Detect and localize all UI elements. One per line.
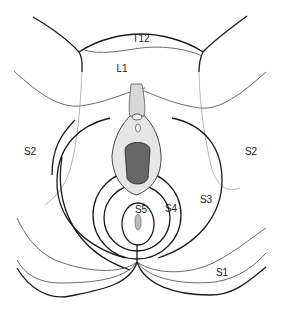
right-gluteal-line-3	[137, 228, 266, 272]
left-trunk-outline	[33, 17, 82, 72]
left-gluteal-line-3	[17, 218, 137, 270]
label-s5: S5	[135, 204, 148, 215]
clitoral-hood	[129, 84, 145, 116]
s2-right-arc	[158, 118, 222, 258]
label-t12: T12	[132, 33, 150, 44]
vaginal-opening	[125, 143, 150, 185]
t12-lower-line	[84, 47, 202, 56]
label-s4: S4	[165, 203, 178, 214]
label-s2-left: S2	[24, 146, 37, 157]
s2-left-arc	[57, 118, 125, 258]
dermatome-diagram: T12 L1 S2 S2 S3 S4 S5 S1	[0, 0, 282, 309]
left-thigh-line	[45, 72, 82, 205]
clitoris	[132, 114, 142, 120]
right-gluteal-line-1	[137, 262, 266, 295]
right-hip-line	[140, 72, 266, 108]
label-s1: S1	[216, 267, 229, 278]
left-hip-line	[14, 71, 145, 106]
label-s3: S3	[200, 194, 213, 205]
right-trunk-outline	[199, 16, 247, 72]
right-thigh-line	[199, 72, 240, 189]
urethral-opening	[136, 124, 141, 132]
left-gluteal-line-2	[17, 260, 137, 283]
label-s2-right: S2	[245, 146, 258, 157]
anus-mark	[135, 214, 141, 230]
label-l1: L1	[116, 63, 128, 74]
